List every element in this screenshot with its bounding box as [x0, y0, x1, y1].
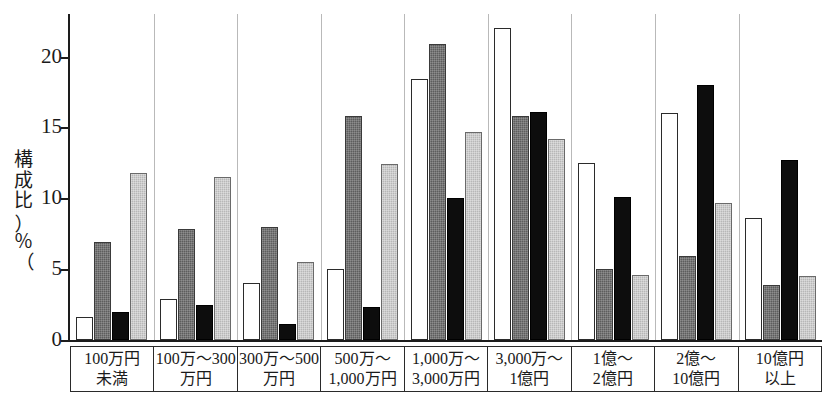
- y-tick-label: 0: [52, 328, 63, 350]
- category-label-line2: 1,000万円: [329, 369, 397, 389]
- bar[interactable]: [614, 197, 631, 340]
- bar[interactable]: [578, 163, 595, 340]
- category-label-cell: 100万〜300万円: [154, 347, 237, 391]
- category-label-line2: 万円: [263, 369, 295, 389]
- bar-group: [739, 14, 823, 340]
- category-label-line1: 100万〜300: [156, 349, 236, 369]
- bar[interactable]: [697, 85, 714, 340]
- y-axis-title-percent: ︵ ％ ︶: [8, 214, 38, 271]
- y-tick-mark: [61, 57, 68, 59]
- bar[interactable]: [632, 275, 649, 340]
- bar[interactable]: [763, 285, 780, 340]
- bar[interactable]: [261, 227, 278, 340]
- category-label-line1: 1,000万〜: [412, 349, 480, 369]
- bar-group: [321, 14, 405, 340]
- category-label-cell: 100万円未満: [71, 347, 154, 391]
- bar-group: [655, 14, 739, 340]
- category-label-line1: 3,000万〜: [495, 349, 563, 369]
- bar[interactable]: [279, 324, 296, 340]
- y-tick-label: 10: [41, 186, 62, 208]
- category-label-line1: 100万円: [84, 349, 140, 369]
- bar[interactable]: [465, 132, 482, 340]
- bar[interactable]: [548, 139, 565, 340]
- bar[interactable]: [327, 269, 344, 340]
- category-label-line1: 300万〜500: [239, 349, 319, 369]
- bar-group: [488, 14, 572, 340]
- bar-group: [571, 14, 655, 340]
- bar[interactable]: [745, 218, 762, 340]
- bar[interactable]: [679, 256, 696, 340]
- bar[interactable]: [363, 307, 380, 340]
- y-axis-title-char-2: 成: [8, 171, 38, 192]
- bar[interactable]: [447, 198, 464, 340]
- bar[interactable]: [381, 164, 398, 340]
- bar[interactable]: [781, 160, 798, 340]
- bar[interactable]: [112, 312, 129, 340]
- bar[interactable]: [715, 203, 732, 340]
- category-label-cell: 300万〜500万円: [238, 347, 321, 391]
- bar-group: [70, 14, 154, 340]
- bar[interactable]: [160, 299, 177, 340]
- category-label-cell: 2億〜10億円: [655, 347, 738, 391]
- category-label-cell: 3,000万〜1億円: [488, 347, 571, 391]
- category-label-line2: 未満: [96, 369, 128, 389]
- category-label-line1: 10億円: [756, 349, 804, 369]
- category-label-line2: 万円: [180, 369, 212, 389]
- bar-group: [237, 14, 321, 340]
- category-label-line2: 3,000万円: [412, 369, 480, 389]
- y-tick-label: 5: [52, 257, 63, 279]
- y-tick-mark: [61, 198, 68, 200]
- bar-chart: 構 成 比 ︵ ％ ︶ 05101520 100万円未満100万〜300万円30…: [0, 0, 829, 398]
- category-label-cell: 1,000万〜3,000万円: [405, 347, 488, 391]
- bar-group: [154, 14, 238, 340]
- bar[interactable]: [243, 283, 260, 340]
- bar[interactable]: [94, 242, 111, 340]
- bar[interactable]: [76, 317, 93, 340]
- y-axis-title: 構 成 比 ︵ ％ ︶: [8, 150, 38, 270]
- bar[interactable]: [345, 116, 362, 340]
- category-label-cell: 500万〜1,000万円: [321, 347, 404, 391]
- bar[interactable]: [530, 112, 547, 340]
- bar[interactable]: [512, 116, 529, 340]
- category-label-line1: 500万〜: [335, 349, 391, 369]
- bar[interactable]: [494, 28, 511, 340]
- x-axis-line: [68, 340, 822, 342]
- plot-area: 05101520: [68, 14, 822, 342]
- category-label-line2: 2億円: [593, 369, 633, 389]
- bar[interactable]: [178, 229, 195, 340]
- y-tick-mark: [61, 340, 68, 342]
- bar[interactable]: [196, 305, 213, 340]
- bar[interactable]: [429, 44, 446, 340]
- bar[interactable]: [130, 173, 147, 340]
- y-tick-label: 20: [41, 45, 62, 67]
- category-label-line2: 10億円: [672, 369, 720, 389]
- category-label-cell: 10億円以上: [739, 347, 821, 391]
- category-label-line1: 2億〜: [676, 349, 716, 369]
- y-tick-label: 15: [41, 115, 62, 137]
- bar[interactable]: [596, 269, 613, 340]
- y-tick-mark: [61, 127, 68, 129]
- bar[interactable]: [411, 79, 428, 340]
- bar-group: [404, 14, 488, 340]
- y-tick-mark: [61, 269, 68, 271]
- category-label-line1: 1億〜: [593, 349, 633, 369]
- category-label-line2: 以上: [764, 369, 796, 389]
- bar[interactable]: [661, 113, 678, 340]
- bar[interactable]: [799, 276, 816, 340]
- bar-groups: [70, 14, 822, 340]
- y-axis-title-char-1: 構: [8, 150, 38, 171]
- category-label-cell: 1億〜2億円: [572, 347, 655, 391]
- bar[interactable]: [297, 262, 314, 340]
- category-axis-table: 100万円未満100万〜300万円300万〜500万円500万〜1,000万円1…: [70, 346, 822, 392]
- bar[interactable]: [214, 177, 231, 340]
- category-label-line2: 1億円: [509, 369, 549, 389]
